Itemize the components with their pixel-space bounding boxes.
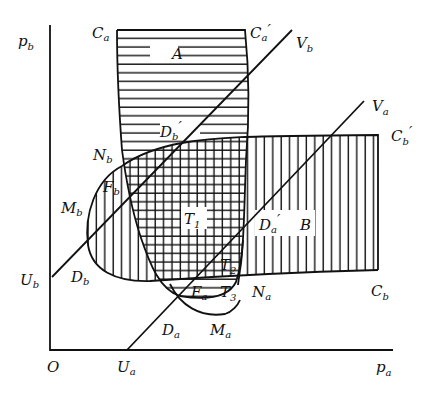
svg-text:A: A xyxy=(170,45,183,63)
svg-text:Na: Na xyxy=(251,283,271,302)
svg-text:Ua: Ua xyxy=(117,358,136,377)
svg-text:Ca′: Ca′ xyxy=(250,21,271,43)
label-Da: Da xyxy=(161,321,180,340)
svg-text:Da: Da xyxy=(161,321,180,340)
label-pa: pa xyxy=(376,358,392,378)
svg-text:Ub: Ub xyxy=(20,271,39,290)
svg-text:Nb: Nb xyxy=(92,146,113,165)
label-pb: pb xyxy=(18,32,34,52)
svg-text:Db: Db xyxy=(70,268,89,287)
label-Ma: Ma xyxy=(209,321,231,340)
label-Ub: Ub xyxy=(20,271,39,290)
svg-text:pa: pa xyxy=(376,358,392,378)
label-Va: Va xyxy=(372,97,389,117)
svg-text:pb: pb xyxy=(18,32,34,52)
svg-text:Cb′: Cb′ xyxy=(391,123,413,147)
svg-text:Va: Va xyxy=(372,97,389,117)
label-Ca: Ca xyxy=(92,24,109,43)
svg-text:O: O xyxy=(47,358,59,376)
label-Vb: Vb xyxy=(296,34,313,54)
label-Nb: Nb xyxy=(92,146,113,165)
label-Db: Db xyxy=(70,268,89,287)
label-A: A xyxy=(170,45,183,63)
svg-text:Vb: Vb xyxy=(296,34,313,54)
label-origin: O xyxy=(47,358,59,376)
label-Cb-prime: Cb′ xyxy=(391,123,413,147)
label-Na: Na xyxy=(251,283,271,302)
label-Mb: Mb xyxy=(60,199,83,218)
label-Ca-prime: Ca′ xyxy=(250,21,271,43)
region-diagram: pb pa O Ca Ca′ Vb A Va Cb′ Db′ Nb Fb Mb … xyxy=(0,0,441,403)
svg-text:Mb: Mb xyxy=(60,199,83,218)
svg-text:Cb: Cb xyxy=(371,282,389,302)
label-Cb: Cb xyxy=(371,282,389,302)
label-B: B xyxy=(299,216,311,234)
svg-text:Ca: Ca xyxy=(92,24,109,43)
label-Ua: Ua xyxy=(117,358,136,377)
svg-text:B: B xyxy=(299,216,311,234)
svg-text:Ma: Ma xyxy=(209,321,231,340)
